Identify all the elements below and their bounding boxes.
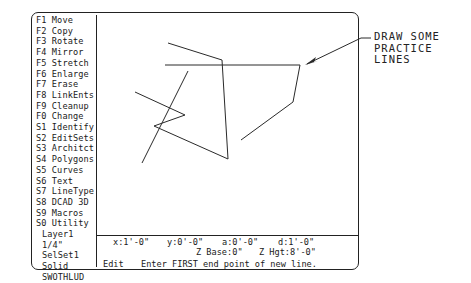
drawing-overlay xyxy=(0,0,471,283)
callout-arrow-icon xyxy=(305,38,371,65)
practice-lines xyxy=(135,43,300,163)
drawn-line-0[interactable] xyxy=(135,43,228,159)
drawn-line-1[interactable] xyxy=(142,71,188,163)
